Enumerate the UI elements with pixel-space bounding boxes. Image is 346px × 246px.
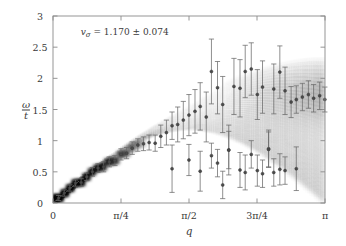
y-axis-label: ωt xyxy=(22,99,30,120)
velocity-annotation: vσ = 1.170 ± 0.074 xyxy=(81,27,169,40)
x-tick-label: π/2 xyxy=(181,210,197,221)
y-tick-label: 1.5 xyxy=(32,104,47,115)
y-tick-label: 2.5 xyxy=(32,42,47,53)
x-axis-label: q xyxy=(186,225,193,237)
x-tick-label: 0 xyxy=(50,210,56,221)
y-tick-label: 3 xyxy=(37,11,43,22)
y-tick-label: 0 xyxy=(37,198,43,209)
x-tick-label: 3π/4 xyxy=(246,210,268,221)
x-tick-label: π xyxy=(322,210,328,221)
y-tick-label: 1 xyxy=(37,135,43,146)
y-tick-label: 2 xyxy=(37,73,43,84)
y-tick-label: 0.5 xyxy=(32,166,47,177)
x-tick-label: π/4 xyxy=(113,210,129,221)
dispersion-figure: 0π/4π/23π/4π00.511.522.53qωt vσ = 1.170 … xyxy=(0,0,346,246)
